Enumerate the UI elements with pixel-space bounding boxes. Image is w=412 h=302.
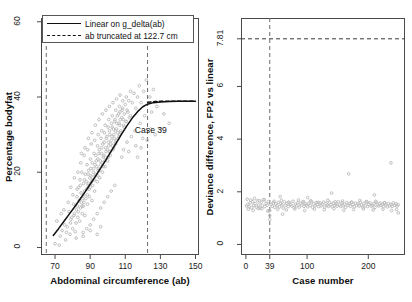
x-tick-label: 130 <box>153 261 167 271</box>
annotation-case-39: Case 39 <box>135 125 167 135</box>
y-axis-title-right: Deviance difference, FP2 vs linear <box>204 58 215 215</box>
x-axis-title-right: Case number <box>292 275 353 286</box>
y-tick-label: 7.81 <box>215 24 225 52</box>
y-tick-label: 0 <box>215 229 225 257</box>
x-tick-label: 110 <box>118 261 132 271</box>
y-tick-label: 2 <box>215 177 225 205</box>
legend-left: Linear on g_delta(ab) ab truncated at 12… <box>42 15 194 43</box>
x-tick-label: 150 <box>188 261 202 271</box>
y-tick-label: 0 <box>12 229 22 263</box>
y-tick-label: 6 <box>215 71 225 99</box>
x-tick-label: 200 <box>361 261 375 271</box>
legend-swatch-solid-line <box>46 19 82 29</box>
plot-graphics-left <box>0 0 206 302</box>
y-tick-label: 60 <box>12 4 22 38</box>
legend-label-truncated: ab truncated at 122.7 cm <box>82 31 178 41</box>
x-tick-label: 70 <box>50 261 59 271</box>
x-tick-label: 90 <box>85 261 94 271</box>
y-tick-label: 40 <box>12 79 22 113</box>
x-axis-title-left: Abdominal circumference (ab) <box>50 275 190 286</box>
panel-deviance-difference: Deviance difference, FP2 vs linear Case … <box>206 0 412 302</box>
x-tick-label: 100 <box>300 261 314 271</box>
panel-bodyfat-vs-ab: Linear on g_delta(ab) ab truncated at 12… <box>0 0 206 302</box>
plot-graphics-right <box>206 0 412 302</box>
x-tick-label: 39 <box>265 261 274 271</box>
figure-two-panel-diagnostics: Linear on g_delta(ab) ab truncated at 12… <box>0 0 412 302</box>
legend-entry-truncated: ab truncated at 122.7 cm <box>43 30 193 42</box>
legend-label-linear: Linear on g_delta(ab) <box>82 19 165 29</box>
y-tick-label: 20 <box>12 154 22 188</box>
legend-entry-linear: Linear on g_delta(ab) <box>43 18 193 30</box>
y-tick-label: 4 <box>215 124 225 152</box>
x-tick-label: 0 <box>244 261 249 271</box>
legend-swatch-dashed-line <box>46 31 82 41</box>
